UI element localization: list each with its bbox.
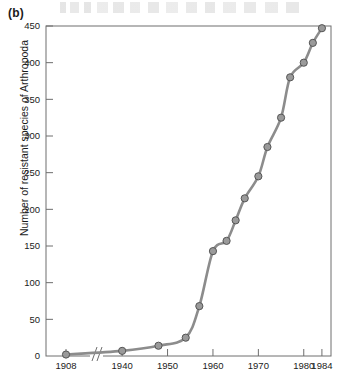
data-point-marker xyxy=(182,334,189,341)
y-tick-label: 150 xyxy=(24,240,40,251)
x-tick-label: 1960 xyxy=(202,360,223,371)
data-point-marker xyxy=(255,173,262,180)
data-point-marker xyxy=(300,59,307,66)
y-tick-label: 400 xyxy=(24,57,40,68)
data-point-marker xyxy=(264,143,271,150)
y-tick-label: 100 xyxy=(24,277,40,288)
y-tick-label: 250 xyxy=(24,167,40,178)
data-point-marker xyxy=(309,39,316,46)
data-point-marker xyxy=(241,195,248,202)
data-point-marker xyxy=(196,303,203,310)
y-tick-label: 0 xyxy=(35,350,40,361)
data-point-marker xyxy=(119,347,126,354)
data-line xyxy=(66,28,322,354)
data-point-marker xyxy=(155,342,162,349)
data-point-marker xyxy=(223,237,230,244)
y-tick-label: 450 xyxy=(24,20,40,31)
y-tick-label: 50 xyxy=(29,314,40,325)
figure-panel: (b) Number of resistant species of Arthr… xyxy=(0,0,346,390)
data-point-marker xyxy=(318,25,325,32)
data-point-marker xyxy=(287,74,294,81)
y-tick-label: 300 xyxy=(24,130,40,141)
data-point-marker xyxy=(277,114,284,121)
x-tick-label: 1950 xyxy=(157,360,178,371)
data-point-marker xyxy=(62,351,69,358)
y-tick-label: 350 xyxy=(24,94,40,105)
x-tick-label: 1984 xyxy=(311,360,332,371)
y-tick-label: 200 xyxy=(24,204,40,215)
x-tick-label: 1908 xyxy=(55,360,76,371)
data-point-marker xyxy=(232,217,239,224)
x-tick-label: 1970 xyxy=(248,360,269,371)
data-point-marker xyxy=(209,248,216,255)
x-tick-label: 1940 xyxy=(112,360,133,371)
chart-plot: 0501001502002503003504004501908194019501… xyxy=(0,0,346,390)
